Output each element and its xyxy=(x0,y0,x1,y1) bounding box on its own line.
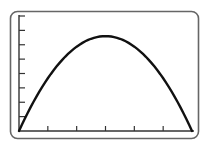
parabola-diagram xyxy=(0,0,202,142)
frame-border xyxy=(11,12,199,139)
